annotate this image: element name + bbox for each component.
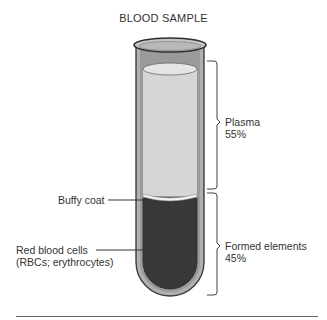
plasma-label: Plasma 55% (225, 116, 260, 140)
buffy-coat-label: Buffy coat (58, 194, 105, 206)
formed-elements-label: Formed elements 45% (225, 240, 307, 264)
red-blood-cells-layer (143, 198, 197, 289)
plasma-percent: 55% (225, 128, 260, 140)
bottom-divider (16, 316, 318, 317)
formed-elements-bracket (207, 193, 220, 295)
rbc-label-line1: Red blood cells (16, 244, 113, 256)
test-tube-illustration (0, 0, 327, 320)
formed-elements-name: Formed elements (225, 240, 307, 252)
plasma-name: Plasma (225, 116, 260, 128)
plasma-layer (143, 69, 197, 196)
rbc-label-line2: (RBCs; erythrocytes) (16, 256, 113, 268)
plasma-bracket (207, 61, 220, 189)
rbc-label: Red blood cells (RBCs; erythrocytes) (16, 244, 113, 268)
formed-elements-percent: 45% (225, 252, 307, 264)
